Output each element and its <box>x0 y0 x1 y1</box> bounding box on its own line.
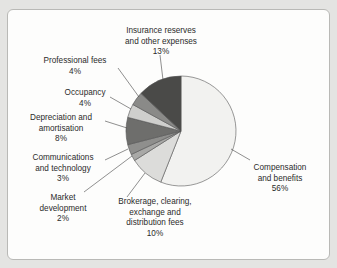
label-communications: Communications and technology 3% <box>22 153 104 185</box>
label-brokerage: Brokerage, clearing, exchange and distri… <box>105 197 205 239</box>
label-insurance: Insurance reserves and other expenses 13… <box>100 26 222 58</box>
label-market: Market development 2% <box>34 193 92 225</box>
label-professional: Professional fees 4% <box>30 56 120 77</box>
label-occupancy: Occupancy 4% <box>55 88 115 109</box>
label-depreciation: Depreciation and amortisation 8% <box>20 113 102 145</box>
label-compensation: Compensation and benefits 56% <box>245 163 315 195</box>
